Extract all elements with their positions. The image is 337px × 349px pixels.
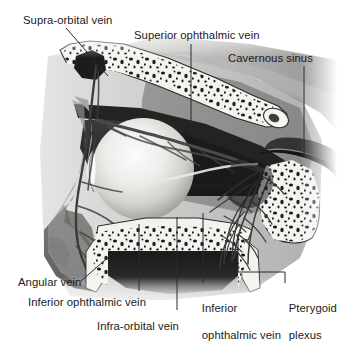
label-superior-ophthalmic-vein: Superior ophthalmic vein	[134, 29, 260, 42]
label-inferior-ophthalmic-vein-right-line2: ophthalmic vein	[202, 329, 281, 341]
label-inferior-ophthalmic-vein-right: Inferior ophthalmic vein	[189, 289, 281, 349]
label-pterygoid-plexus-line1: Pterygoid	[289, 302, 337, 314]
label-angular-vein: Angular vein	[18, 276, 81, 289]
anatomical-figure: Supra-orbital vein Superior ophthalmic v…	[0, 0, 337, 349]
label-supra-orbital-vein: Supra-orbital vein	[23, 14, 112, 27]
label-cavernous-sinus: Cavernous sinus	[228, 52, 313, 65]
label-pterygoid-plexus-of-veins: Pterygoid plexus of veins	[276, 289, 337, 349]
label-pterygoid-plexus-line2: plexus	[289, 329, 322, 341]
label-inferior-ophthalmic-vein-right-line1: Inferior	[202, 302, 238, 314]
label-infra-orbital-vein: Infra-orbital vein	[97, 320, 179, 333]
label-inferior-ophthalmic-vein-left: Inferior ophthalmic vein	[28, 296, 146, 309]
